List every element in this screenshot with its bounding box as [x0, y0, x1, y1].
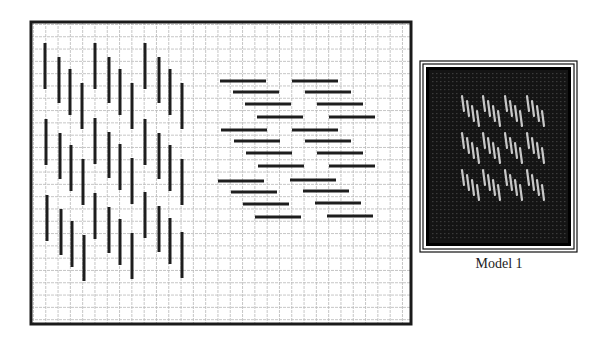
- stitch-diagram: [0, 0, 606, 341]
- vertical-stitch-pattern: [45, 43, 182, 281]
- grid-lines: [31, 22, 411, 324]
- model-caption: Model 1: [420, 256, 578, 272]
- grid-frame: [31, 22, 411, 324]
